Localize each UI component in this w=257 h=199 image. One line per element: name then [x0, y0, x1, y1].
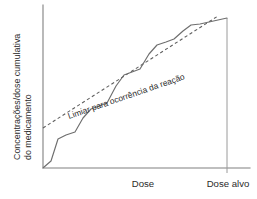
y-axis-label-line-2: do medicamento: [23, 94, 33, 160]
x-tick-label-dose: Dose: [132, 178, 154, 189]
chart-figure: Concentrações/dose cumulativa do medicam…: [0, 0, 257, 199]
y-axis-label-line-1: Concentrações/dose cumulativa: [12, 34, 22, 160]
chart-svg: Concentrações/dose cumulativa do medicam…: [0, 0, 257, 199]
y-axis-label: Concentrações/dose cumulativa do medicam…: [12, 34, 33, 160]
threshold-annotation-label: Limiar para ocorrência da reação: [66, 71, 186, 121]
x-tick-label-dose-alvo: Dose alvo: [207, 178, 250, 189]
